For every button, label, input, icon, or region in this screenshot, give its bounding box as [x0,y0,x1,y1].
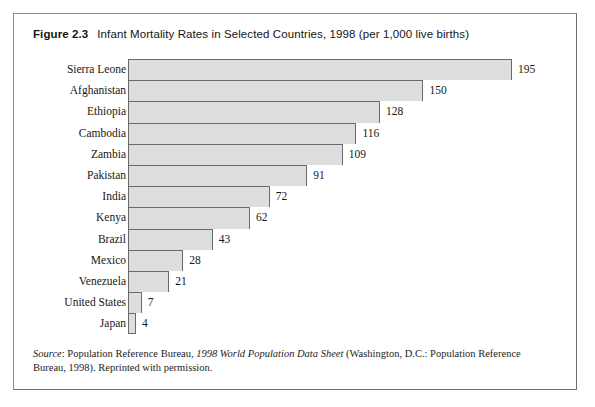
bar-row: United States7 [14,292,578,313]
figure-number: Figure 2.3 [33,28,88,40]
bar-value-label: 72 [276,186,288,207]
bar-row: Ethiopia128 [14,101,578,122]
bar-value-label: 116 [362,123,379,144]
bar-row: Venezuela21 [14,271,578,292]
bar-row: Kenya62 [14,207,578,228]
bar-value-label: 62 [256,207,268,228]
bar [128,313,136,334]
page-title: Figure 2.3Infant Mortality Rates in Sele… [33,28,469,40]
source-publication: 1998 World Population Data Sheet [196,348,343,359]
bar-category-label: Cambodia [79,123,126,144]
bar [128,165,307,186]
bar-row: India72 [14,186,578,207]
bar-category-label: Mexico [91,250,126,271]
bar-value-label: 28 [189,250,201,271]
bar-chart: Sierra Leone195Afghanistan150Ethiopia128… [14,59,578,344]
bar-value-label: 4 [142,313,148,334]
bar-category-label: Ethiopia [87,101,126,122]
bar-value-label: 109 [349,144,366,165]
bar-category-label: Zambia [91,144,126,165]
bar-category-label: Brazil [98,229,126,250]
bar-row: Sierra Leone195 [14,59,578,80]
bar [128,123,356,144]
bar-row: Cambodia116 [14,123,578,144]
bar-value-label: 150 [429,80,446,101]
bar-value-label: 43 [219,229,231,250]
bar [128,207,250,228]
bar [128,80,423,101]
bar-value-label: 7 [148,292,154,313]
bar [128,144,343,165]
bar-value-label: 195 [518,59,535,80]
bar-row: Pakistan91 [14,165,578,186]
bar-value-label: 128 [386,101,403,122]
bar [128,250,183,271]
figure-frame: Figure 2.3Infant Mortality Rates in Sele… [13,13,577,390]
bar-row: Japan4 [14,313,578,334]
bar [128,186,270,207]
bar [128,59,512,80]
source-label: Source [33,348,62,359]
bar-category-label: India [102,186,126,207]
bar-category-label: Venezuela [79,271,126,292]
bar-row: Afghanistan150 [14,80,578,101]
bar-value-label: 21 [175,271,187,292]
bar-category-label: United States [64,292,126,313]
bar-category-label: Pakistan [87,165,126,186]
bar-category-label: Japan [100,313,126,334]
bar-category-label: Afghanistan [70,80,126,101]
bar [128,229,213,250]
bar-category-label: Sierra Leone [67,59,126,80]
bar-value-label: 91 [313,165,325,186]
bar-category-label: Kenya [96,207,126,228]
figure-caption: Infant Mortality Rates in Selected Count… [88,28,469,40]
bar-row: Zambia109 [14,144,578,165]
bar-row: Brazil43 [14,229,578,250]
bar [128,292,142,313]
bar [128,101,380,122]
source-note: Source: Population Reference Bureau, 199… [33,347,553,374]
bar-row: Mexico28 [14,250,578,271]
source-organization: Population Reference Bureau, [67,348,196,359]
bar [128,271,169,292]
